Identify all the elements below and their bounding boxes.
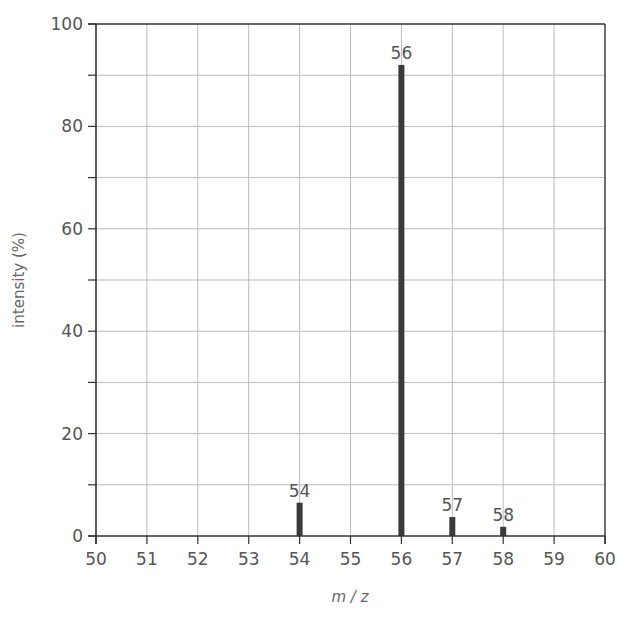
peak-label-58: 58 xyxy=(492,505,514,525)
y-axis-ticks: 020406080100 xyxy=(51,14,96,546)
x-tick-label: 55 xyxy=(340,549,362,569)
y-tick-label: 100 xyxy=(51,14,83,34)
x-tick-label: 53 xyxy=(238,549,260,569)
peak-bar-54 xyxy=(297,503,303,536)
axes xyxy=(88,24,605,544)
peak-bar-57 xyxy=(449,517,455,536)
x-tick-label: 57 xyxy=(441,549,463,569)
x-tick-label: 50 xyxy=(85,549,107,569)
x-tick-label: 51 xyxy=(136,549,158,569)
x-tick-label: 59 xyxy=(543,549,565,569)
mass-spectrum-chart: 5051525354555657585960 020406080100 5456… xyxy=(0,0,618,618)
x-axis-title: m / z xyxy=(331,588,369,606)
peak-label-57: 57 xyxy=(441,495,463,515)
peak-label-56: 56 xyxy=(391,43,413,63)
peak-bar-56 xyxy=(398,65,404,536)
x-tick-label: 60 xyxy=(594,549,616,569)
y-tick-label: 0 xyxy=(72,526,83,546)
x-tick-label: 52 xyxy=(187,549,209,569)
x-tick-label: 56 xyxy=(391,549,413,569)
y-tick-label: 40 xyxy=(61,321,83,341)
y-tick-label: 20 xyxy=(61,424,83,444)
peak-label-54: 54 xyxy=(289,481,311,501)
peak-bars xyxy=(297,65,507,536)
x-tick-label: 54 xyxy=(289,549,311,569)
x-tick-label: 58 xyxy=(492,549,514,569)
y-axis-title: intensity (%) xyxy=(10,232,28,328)
x-axis-ticks: 5051525354555657585960 xyxy=(85,536,616,569)
grid xyxy=(96,24,605,536)
peak-bar-58 xyxy=(500,527,506,536)
y-tick-label: 60 xyxy=(61,219,83,239)
y-tick-label: 80 xyxy=(61,116,83,136)
